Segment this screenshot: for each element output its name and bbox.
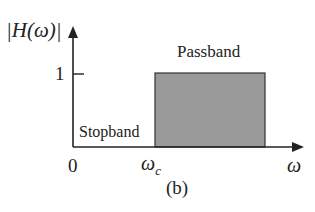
passband-label: Passband	[177, 43, 240, 60]
wc-main: ω	[141, 152, 155, 174]
ylabel-text: |H(ω)|	[6, 18, 62, 42]
y-tick-label: 1	[55, 64, 65, 83]
figure-caption: (b)	[166, 178, 188, 197]
x-axis-arrow-icon	[292, 142, 304, 152]
y-axis-arrow-icon	[68, 26, 78, 38]
passband-region	[155, 73, 265, 147]
x-axis-label: ω	[287, 155, 301, 175]
y-axis-label: |H(ω)|	[6, 20, 62, 41]
x-tick-label-0: 0	[68, 156, 78, 175]
stopband-label: Stopband	[79, 124, 139, 140]
wc-sub: c	[155, 163, 161, 178]
x-tick-label-wc: ωc	[141, 153, 161, 177]
